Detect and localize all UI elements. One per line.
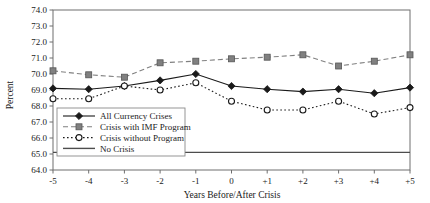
x-tick-label: +3 xyxy=(334,176,344,186)
x-axis-title: Years Before/After Crisis xyxy=(184,190,281,200)
y-tick-label: 66.0 xyxy=(31,133,47,143)
line-chart: 64.065.066.067.068.069.070.071.072.073.0… xyxy=(0,0,430,203)
x-tick-label: -5 xyxy=(49,176,57,186)
series-2 xyxy=(50,52,413,80)
x-tick-label: +1 xyxy=(262,176,272,186)
x-tick-label: +4 xyxy=(370,176,380,186)
x-tick-label: +5 xyxy=(405,176,415,186)
y-tick-label: 69.0 xyxy=(31,85,47,95)
legend-label: No Crisis xyxy=(100,144,135,154)
y-tick-label: 64.0 xyxy=(31,165,47,175)
y-tick-label: 71.0 xyxy=(31,53,47,63)
chart-legend: All Currency CrisesCrisis with IMF Progr… xyxy=(57,108,191,156)
y-tick-label: 73.0 xyxy=(31,21,47,31)
x-tick-label: -1 xyxy=(192,176,200,186)
y-tick-label: 65.0 xyxy=(31,149,47,159)
x-tick-label: -3 xyxy=(121,176,129,186)
x-tick-label: +2 xyxy=(298,176,308,186)
x-axis-ticks: -5-4-3-2-10+1+2+3+4+5 xyxy=(49,170,415,186)
x-tick-label: -2 xyxy=(156,176,164,186)
legend-label: Crisis with IMF Program xyxy=(100,122,191,132)
y-axis-title: Percent xyxy=(5,80,15,109)
legend-label: Crisis without Program xyxy=(100,133,184,143)
y-tick-label: 67.0 xyxy=(31,117,47,127)
y-tick-label: 72.0 xyxy=(31,37,47,47)
y-tick-label: 68.0 xyxy=(31,101,47,111)
chart-figure: 64.065.066.067.068.069.070.071.072.073.0… xyxy=(0,0,430,203)
y-tick-label: 70.0 xyxy=(31,69,47,79)
legend-label: All Currency Crises xyxy=(100,111,172,121)
y-tick-label: 74.0 xyxy=(31,5,47,15)
x-tick-label: 0 xyxy=(229,176,234,186)
x-tick-label: -4 xyxy=(85,176,93,186)
y-axis-ticks: 64.065.066.067.068.069.070.071.072.073.0… xyxy=(31,5,53,175)
